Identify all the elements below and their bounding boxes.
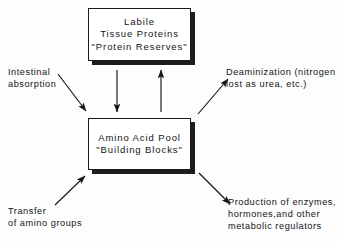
labile-proteins-line-3: "Protein Reserves": [92, 41, 188, 53]
production-enzymes-line-2: hormones,and other: [228, 208, 336, 220]
transfer-amino-groups-line-1: Transfer: [8, 205, 82, 217]
transfer-amino-groups-line-2: of amino groups: [8, 217, 82, 229]
deaminization-line-1: Deaminization (nitrogen: [226, 66, 336, 78]
labile-proteins-line-1: Labile: [124, 16, 155, 28]
labile-proteins-line-2: Tissue Proteins: [100, 28, 179, 40]
arrow-deaminization-out: [198, 79, 228, 114]
amino-acid-pool-line-2: "Building Blocks": [96, 144, 182, 156]
arrow-transfer-amino-groups-in: [55, 176, 85, 205]
diagram-canvas: Labile Tissue Proteins "Protein Reserves…: [0, 0, 338, 241]
production-enzymes-line-1: Production of enzymes,: [228, 196, 336, 208]
intestinal-absorption-line-1: Intestinal: [8, 66, 56, 78]
arrow-intestinal-absorption-in: [58, 74, 86, 111]
label-intestinal-absorption: Intestinal absorption: [8, 66, 56, 90]
production-enzymes-line-3: metabolic regulators: [228, 220, 336, 232]
arrow-production-enzymes-out: [199, 173, 230, 204]
label-deaminization: Deaminization (nitrogen lost as urea, et…: [226, 66, 336, 90]
deaminization-line-2: lost as urea, etc.): [226, 78, 336, 90]
intestinal-absorption-line-2: absorption: [8, 78, 56, 90]
amino-acid-pool-line-1: Amino Acid Pool: [98, 132, 181, 144]
node-amino-acid-pool[interactable]: Amino Acid Pool "Building Blocks": [88, 118, 191, 170]
label-transfer-of-amino-groups: Transfer of amino groups: [8, 205, 82, 229]
label-production-of-enzymes: Production of enzymes, hormones,and othe…: [228, 196, 336, 233]
node-labile-tissue-proteins[interactable]: Labile Tissue Proteins "Protein Reserves…: [88, 8, 191, 61]
